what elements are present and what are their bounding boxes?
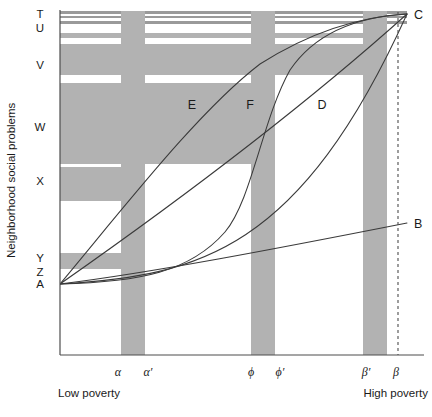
band-knockout-v (387, 44, 407, 75)
y-tick-label-x: X (36, 175, 44, 187)
curve-label-d: D (317, 98, 326, 112)
x-tick-label-alpha-prime: α′ (144, 365, 153, 379)
curve-label-b: B (414, 217, 422, 231)
x-axis-caption-low: Low poverty (58, 387, 120, 399)
bar-band-overlap-1 (121, 83, 145, 164)
y-tick-label-y: Y (36, 252, 44, 264)
curve-label-c: C (414, 8, 423, 22)
y-tick-label-v: V (36, 59, 44, 71)
curve-label-f: F (246, 98, 254, 112)
horizontal-band-4 (60, 33, 407, 38)
chart-canvas: T U V W X Y Z A α α′ ϕ ϕ′ β′ β Low pover… (0, 0, 432, 417)
horizontal-band-2 (60, 16, 407, 18)
shaded-regions (60, 11, 407, 355)
y-tick-label-t: T (36, 8, 43, 20)
bar-band-overlap-2 (251, 83, 275, 164)
y-axis-title: Neighborhood social problems (5, 102, 17, 258)
x-tick-label-phi-prime: ϕ′ (276, 365, 285, 379)
x-tick-label-beta: β (392, 365, 399, 379)
vertical-bar-alpha (121, 11, 145, 355)
y-tick-label-z: Z (36, 266, 43, 278)
y-tick-label-a: A (36, 278, 44, 290)
y-tick-label-u: U (36, 22, 44, 34)
x-tick-label-phi: ϕ (248, 365, 254, 379)
y-tick-label-w: W (35, 121, 46, 133)
horizontal-band-1 (60, 11, 407, 14)
chart-figure: T U V W X Y Z A α α′ ϕ ϕ′ β′ β Low pover… (0, 0, 432, 417)
x-axis-caption-high: High poverty (363, 387, 428, 399)
band-knockout-w (275, 83, 407, 164)
x-tick-label-alpha: α (115, 365, 122, 379)
x-tick-label-beta-prime: β′ (361, 365, 371, 379)
curve-label-e: E (188, 98, 196, 112)
